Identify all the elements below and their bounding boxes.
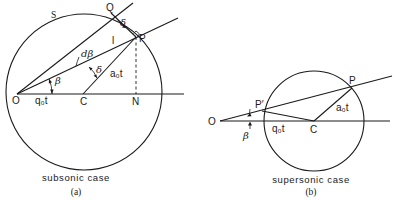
label-delta-inner: δ [96,64,102,75]
label-ray-l: l [112,35,114,46]
beta-arrow-b-bottom [248,122,252,126]
label-radius-cp-b: a₀t [336,102,349,113]
label-point-p-prime: P′ [255,99,264,110]
figure-a-subsonic: S Q P l O C N β dβ δ δ q₀t a₀t subsonic … [6,2,184,198]
beta-arrow-b-top-shaft [250,109,251,114]
diagram-canvas: S Q P l O C N β dβ δ δ q₀t a₀t subsonic … [0,0,394,200]
sublabel-a: (a) [71,187,82,198]
radius-cp-prime-b [262,111,314,121]
label-point-p-b: P [349,75,356,86]
label-point-q: Q [106,2,114,13]
label-point-p: P [139,33,146,44]
caption-subsonic: subsonic case [42,172,110,183]
ray-op-b [220,76,392,121]
label-segment-oc-b: q₀t [272,123,285,134]
sublabel-b: (b) [305,187,316,198]
label-delta-outer: δ [120,17,126,28]
label-center-c-b: C [310,124,317,135]
label-segment-oc-a: q₀t [35,95,48,106]
label-origin-o: O [12,95,20,106]
ray-oq-a [17,3,133,94]
label-origin-o-b: O [208,116,216,127]
label-wavefront-s: S [51,10,56,20]
caption-supersonic: supersonic case [272,174,350,185]
beta-arrow-a [50,89,53,94]
label-beta-b: β [242,130,249,141]
label-foot-n: N [132,96,139,107]
ray-op-a [17,18,178,94]
label-dbeta: dβ [81,48,93,59]
figure-b-supersonic: O C P P′ β q₀t a₀t supersonic case (b) [208,71,392,198]
label-beta-a: β [54,75,61,86]
label-center-c: C [80,96,87,107]
radius-cp-a [83,37,136,94]
label-radius-cp-a: a₀t [110,68,123,79]
